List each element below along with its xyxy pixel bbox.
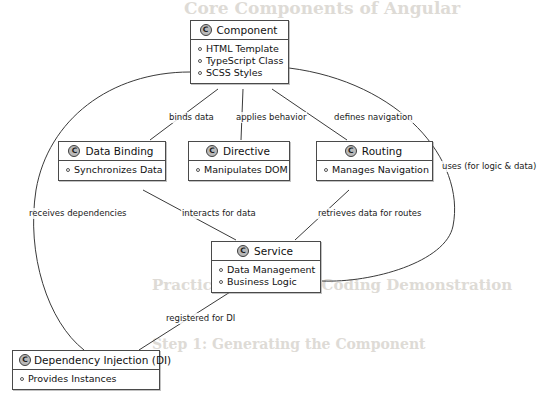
class-attribute: Synchronizes Data <box>66 164 159 176</box>
ghost-line <box>150 46 154 59</box>
ghost-line <box>152 308 156 321</box>
class-stereotype-icon: C <box>206 145 218 157</box>
class-name: Routing <box>362 145 402 157</box>
class-stereotype-icon: C <box>237 245 249 257</box>
class-node-data-binding[interactable]: C Data Binding Synchronizes Data <box>58 141 166 181</box>
bullet-icon <box>219 280 223 284</box>
class-attribute: Provides Instances <box>20 373 153 385</box>
class-node-directive[interactable]: C Directive Manipulates DOM <box>188 141 290 181</box>
class-node-header: C Dependency Injection (DI) <box>13 351 159 370</box>
class-stereotype-icon: C <box>345 145 357 157</box>
class-attribute-label: TypeScript Class <box>206 55 283 67</box>
class-attribute-list: Synchronizes Data <box>59 161 165 180</box>
bullet-icon <box>66 168 70 172</box>
edge-label-binds-data: binds data <box>168 112 215 123</box>
ghost-subheading: Step 1: Generating the Component <box>152 336 426 352</box>
class-attribute-list: HTML Template TypeScript Class SCSS Styl… <box>191 40 288 83</box>
class-attribute-list: Data Management Business Logic <box>212 261 320 292</box>
edge-label-registered-for-di: registered for DI <box>165 313 236 324</box>
class-attribute: TypeScript Class <box>198 55 282 67</box>
class-attribute-list: Manages Navigation <box>317 161 432 180</box>
class-attribute-label: Business Logic <box>227 276 297 288</box>
class-attribute: Manipulates DOM <box>196 164 283 176</box>
class-name: Service <box>254 245 293 257</box>
ghost-heading-top: Core Components of Angular <box>184 0 460 18</box>
edge-label-receives-dependencies: receives dependencies <box>28 208 128 219</box>
bullet-icon <box>196 168 200 172</box>
edge-label-applies-behavior: applies behavior <box>235 112 307 123</box>
class-node-routing[interactable]: C Routing Manages Navigation <box>316 141 433 181</box>
class-attribute: Data Management <box>219 264 314 276</box>
bullet-icon <box>198 59 202 63</box>
class-node-header: C Directive <box>189 142 289 161</box>
class-node-header: C Routing <box>317 142 432 161</box>
class-node-header: C Service <box>212 242 320 261</box>
class-attribute: Business Logic <box>219 276 314 288</box>
bullet-icon <box>20 377 24 381</box>
ghost-heading-mid: Practical Hands-On Coding Demonstration <box>152 276 512 294</box>
ghost-line <box>150 180 154 193</box>
class-name: Dependency Injection (DI) <box>34 354 171 366</box>
class-name: Data Binding <box>85 145 153 157</box>
class-node-header: C Data Binding <box>59 142 165 161</box>
edge-label-uses-for-logic-data: uses (for logic & data) <box>441 161 537 172</box>
class-stereotype-icon: C <box>200 24 212 36</box>
class-attribute-label: SCSS Styles <box>206 67 263 79</box>
class-attribute: HTML Template <box>198 43 282 55</box>
class-attribute: SCSS Styles <box>198 67 282 79</box>
diagram-canvas: Core Components of Angular Practical Han… <box>0 0 560 411</box>
class-stereotype-icon: C <box>68 145 80 157</box>
class-node-header: C Component <box>191 21 288 40</box>
edge-label-interacts-for-data: interacts for data <box>181 208 257 219</box>
bullet-icon <box>219 268 223 272</box>
class-attribute-label: HTML Template <box>206 43 279 55</box>
class-attribute-label: Provides Instances <box>28 373 117 385</box>
ghost-line <box>150 110 154 123</box>
edge-label-defines-navigation: defines navigation <box>333 112 414 123</box>
class-stereotype-icon: C <box>19 354 31 366</box>
class-name: Component <box>217 24 278 36</box>
class-node-service[interactable]: C Service Data Management Business Logic <box>211 241 321 293</box>
class-attribute-list: Manipulates DOM <box>189 161 289 180</box>
ghost-line <box>150 70 154 83</box>
bullet-icon <box>198 71 202 75</box>
class-attribute-label: Synchronizes Data <box>74 164 163 176</box>
class-attribute-label: Manipulates DOM <box>204 164 288 176</box>
bullet-icon <box>198 47 202 51</box>
class-name: Directive <box>223 145 270 157</box>
class-attribute-label: Data Management <box>227 264 315 276</box>
class-node-component[interactable]: C Component HTML Template TypeScript Cla… <box>190 20 289 84</box>
class-attribute-label: Manages Navigation <box>332 164 429 176</box>
class-attribute-list: Provides Instances <box>13 370 159 389</box>
class-node-dependency-injection[interactable]: C Dependency Injection (DI) Provides Ins… <box>12 350 160 390</box>
edge-label-retrieves-data-for-routes: retrieves data for routes <box>317 208 422 219</box>
ghost-line <box>150 216 154 229</box>
bullet-icon <box>324 168 328 172</box>
class-attribute: Manages Navigation <box>324 164 426 176</box>
